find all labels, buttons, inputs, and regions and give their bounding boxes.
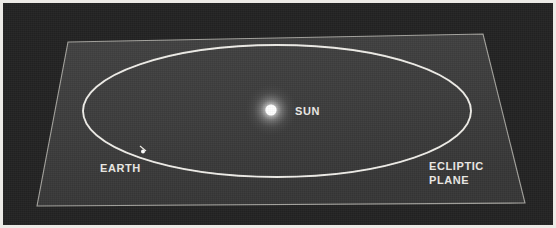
earth-icon xyxy=(141,150,145,154)
sun-label: SUN xyxy=(295,105,320,117)
ecliptic-plane-diagram: SUN EARTH ECLIPTIC PLANE xyxy=(0,0,556,228)
sun-icon xyxy=(265,104,276,115)
ecliptic-plane-label-line1: ECLIPTIC xyxy=(429,160,484,172)
earth-label: EARTH xyxy=(100,162,141,174)
scene-canvas: SUN EARTH ECLIPTIC PLANE xyxy=(0,0,556,228)
ecliptic-plane-label-line2: PLANE xyxy=(429,174,469,186)
